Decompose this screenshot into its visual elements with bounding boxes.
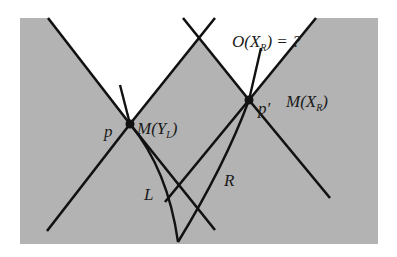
event-p bbox=[126, 120, 135, 129]
label-R: R bbox=[223, 171, 235, 190]
light-cone-diagram: p M(YL) p′ M(XR) O(XR) = ? L R bbox=[0, 0, 397, 257]
label-L: L bbox=[143, 185, 153, 204]
label-p: p bbox=[103, 122, 113, 141]
label-M-XR: M(XR) bbox=[285, 92, 328, 113]
label-O-XR: O(XR) = ? bbox=[232, 32, 301, 53]
label-M-YL: M(YL) bbox=[136, 119, 178, 140]
label-p-prime: p′ bbox=[257, 99, 271, 118]
event-p-prime bbox=[245, 96, 254, 105]
